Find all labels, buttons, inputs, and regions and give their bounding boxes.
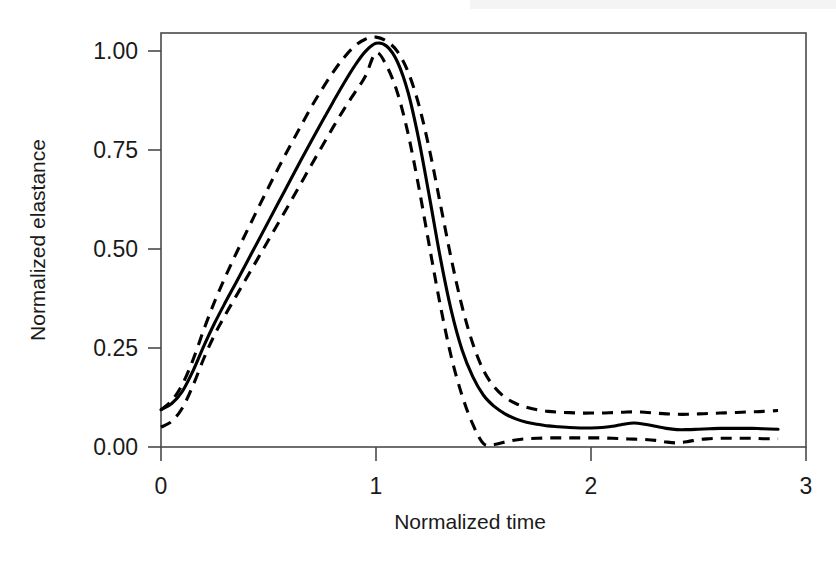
x-tick-label-2: 2: [585, 473, 598, 499]
y-tick-label-0.50: 0.50: [93, 236, 138, 262]
y-tick-label-0.00: 0.00: [93, 434, 138, 460]
y-tick-label-0.25: 0.25: [93, 335, 138, 361]
x-tick-label-3: 3: [800, 473, 813, 499]
x-axis-title: Normalized time: [394, 510, 546, 533]
scan-artifact: [470, 0, 836, 9]
elastance-chart-figure: 1.00 0.75 0.50 0.25 0.00 0 1 2 3 Normali…: [0, 0, 836, 567]
x-tick-label-0: 0: [155, 473, 168, 499]
y-tick-label-0.75: 0.75: [93, 137, 138, 163]
y-tick-label-1.00: 1.00: [93, 38, 138, 64]
y-axis-title: Normalized elastance: [26, 139, 49, 341]
x-tick-label-1: 1: [370, 473, 383, 499]
figure-background: [0, 0, 836, 567]
